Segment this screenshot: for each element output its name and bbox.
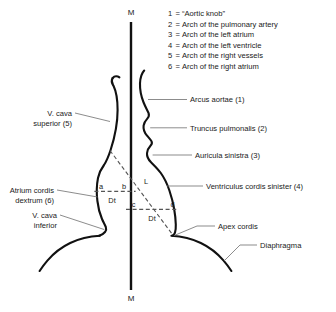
label-atrium-cordis-dextrum-line2: dextrum (6) [15, 196, 54, 205]
legend-eq-2: = [176, 20, 181, 29]
legend-key-4: 4 [168, 41, 172, 50]
marker-dt-upper: Dt [108, 196, 115, 205]
label-apex-cordis: Apex cordis [218, 222, 258, 231]
legend-item-6: 6 = Arch of the right atrium [168, 62, 259, 71]
legend-text-3: Arch of the left atrium [182, 30, 254, 39]
label-atrium-cordis-dextrum: Atrium cordis dextrum (6) [10, 186, 55, 205]
marker-segment-d: d [170, 200, 174, 209]
legend-key-2: 2 [168, 20, 172, 29]
marker-segment-b: b [122, 182, 126, 191]
legend-key-3: 3 [168, 30, 172, 39]
leader-atrium-cordis-dextrum [57, 190, 98, 197]
marker-dt-lower: Dt [148, 214, 155, 223]
legend-text-6: Arch of the right atrium [182, 62, 259, 71]
legend-text-4: Arch of the left ventricle [182, 41, 261, 50]
label-v-cava-superior-line2: superior (5) [33, 119, 72, 128]
leader-diaphragma [224, 245, 257, 261]
label-truncus-pulmonalis: Truncus pulmonalis (2) [190, 124, 267, 133]
legend-item-3: 3 = Arch of the left atrium [168, 30, 254, 39]
midline-bottom-label: M [128, 294, 135, 303]
legend-eq-4: = [176, 41, 181, 50]
label-atrium-cordis-dextrum-line1: Atrium cordis [10, 186, 55, 195]
label-auricula-sinistra: Auricula sinistra (3) [195, 151, 260, 160]
legend-eq-6: = [176, 62, 181, 71]
legend-list: 1 = “Aortic knob” 2 = Arch of the pulmon… [168, 9, 278, 71]
label-v-cava-inferior-line2: inferior [34, 221, 58, 230]
marker-segment-c: c [132, 200, 136, 209]
legend-text-1: “Aortic knob” [182, 9, 226, 18]
marker-segment-a: a [99, 182, 104, 191]
legend-item-5: 5 = Arch of the right vessels [168, 51, 263, 60]
label-v-cava-inferior: V. cava inferior [32, 211, 57, 230]
left-heart-border-contour [140, 71, 176, 236]
diagram-canvas: M M 1 = “Aortic knob” 2 = Arch of the pu… [0, 0, 336, 312]
marker-long-axis-L: L [144, 177, 148, 186]
legend-item-2: 2 = Arch of the pulmonary artery [168, 20, 278, 29]
diaphragma-left-contour [171, 236, 231, 271]
legend-item-1: 1 = “Aortic knob” [168, 9, 226, 18]
leader-v-cava-superior [75, 113, 110, 122]
leader-v-cava-inferior [60, 215, 104, 230]
label-arcus-aortae: Arcus aortae (1) [190, 95, 245, 104]
legend-key-1: 1 [168, 9, 172, 18]
label-ventriculus-cordis-sinister: Ventriculus cordis sinister (4) [206, 182, 304, 191]
legend-text-2: Arch of the pulmonary artery [182, 20, 278, 29]
cardiac-silhouette-diagram: M M 1 = “Aortic knob” 2 = Arch of the pu… [0, 0, 336, 312]
midline-top-label: M [128, 8, 135, 17]
legend-eq-5: = [176, 51, 181, 60]
long-axis-dashed-line [110, 151, 173, 236]
legend-key-5: 5 [168, 51, 172, 60]
legend-key-6: 6 [168, 62, 172, 71]
svc-top-cap [113, 76, 120, 78]
legend-item-4: 4 = Arch of the left ventricle [168, 41, 261, 50]
label-v-cava-superior-line1: V. cava [47, 109, 72, 118]
label-v-cava-inferior-line1: V. cava [32, 211, 57, 220]
diaphragma-right-contour [40, 236, 100, 271]
legend-eq-1: = [176, 9, 181, 18]
leader-apex-cordis [174, 226, 215, 236]
legend-text-5: Arch of the right vessels [182, 51, 263, 60]
legend-eq-3: = [176, 30, 181, 39]
label-diaphragma: Diaphragma [260, 241, 302, 250]
label-v-cava-superior: V. cava superior (5) [33, 109, 73, 128]
